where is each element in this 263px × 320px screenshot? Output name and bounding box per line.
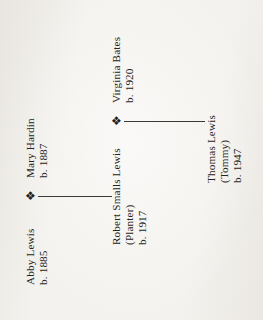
marriage-diamond-icon-robert-virginia: ❖ [111,116,122,127]
marriage-diamond-icon-abby-mary: ❖ [25,191,36,202]
person-name-virginia-bates: Virginia Bates [110,37,123,103]
person-card-thomas-lewis: Thomas Lewis (Tommy) b. 1947 [205,115,245,183]
family-tree-chart: Mary Hardin b. 1887 ❖ Abby Lewis b. 1885… [0,0,263,320]
person-card-virginia-bates: Virginia Bates b. 1920 [110,37,136,103]
person-birth-virginia-bates: b. 1920 [123,37,136,103]
person-card-mary-hardin: Mary Hardin b. 1887 [24,118,50,178]
person-birth-thomas-lewis: b. 1947 [231,115,244,183]
person-birth-abby-lewis: b. 1885 [37,229,50,286]
person-birth-mary-hardin: b. 1887 [37,118,50,178]
connector-line-gen2-to-gen3 [124,121,205,122]
connector-line-gen1-to-gen2 [38,196,112,197]
person-card-abby-lewis: Abby Lewis b. 1885 [24,229,50,286]
person-name-robert-smalls-lewis: Robert Smalls Lewis [110,148,123,245]
person-nickname-thomas-lewis: (Tommy) [218,115,231,183]
person-name-abby-lewis: Abby Lewis [24,229,37,286]
person-name-thomas-lewis: Thomas Lewis [205,115,218,183]
person-card-robert-smalls-lewis: Robert Smalls Lewis (Planter) b. 1917 [110,148,150,245]
person-occupation-robert-smalls-lewis: (Planter) [123,148,136,245]
person-name-mary-hardin: Mary Hardin [24,118,37,178]
person-birth-robert-smalls-lewis: b. 1917 [136,148,149,245]
